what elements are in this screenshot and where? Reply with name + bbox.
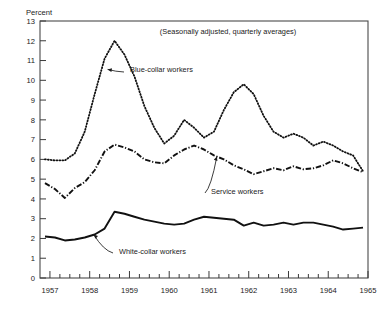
annotation-label: Blue-collar workers	[130, 65, 193, 74]
y-axis-label: Percent	[26, 8, 53, 17]
chart-container: Percent (Seasonally adjusted, quarterly …	[0, 0, 391, 318]
x-tick-label: 1960	[161, 286, 178, 295]
y-tick-label: 3	[31, 214, 35, 223]
y-tick-label: 10	[27, 76, 35, 85]
y-tick-label: 9	[31, 96, 35, 105]
y-tick-label: 6	[31, 155, 35, 164]
annotation-label: White-collar workers	[119, 247, 186, 256]
annotation-arrowhead	[108, 68, 112, 72]
x-tick-label: 1965	[360, 286, 377, 295]
y-tick-label: 0	[31, 274, 35, 283]
annotation-arrowhead	[94, 235, 98, 239]
y-axis-tick-labels: 012345678910111213	[27, 17, 35, 283]
chart-note: (Seasonally adjusted, quarterly averages…	[160, 27, 296, 36]
series-annotations: Blue-collar workersService workersWhite-…	[94, 65, 264, 256]
y-tick-label: 7	[31, 135, 35, 144]
x-axis-tick-labels: 195719581959196019611962196319641965	[41, 286, 376, 295]
x-tick-label: 1958	[81, 286, 98, 295]
y-tick-label: 5	[31, 175, 35, 184]
y-tick-label: 1	[31, 254, 35, 263]
x-tick-label: 1959	[121, 286, 138, 295]
y-axis-ticks	[40, 21, 46, 278]
annotation-label: Service workers	[211, 187, 264, 196]
x-tick-label: 1957	[41, 286, 58, 295]
y-tick-label: 4	[31, 195, 35, 204]
series-line-0	[45, 41, 363, 171]
data-series-group	[45, 41, 363, 241]
annotation-arrowhead	[214, 156, 218, 161]
y-tick-label: 11	[27, 56, 35, 65]
y-tick-label: 12	[27, 37, 35, 46]
x-axis-ticks	[50, 271, 368, 278]
unemployment-rate-line-chart: Percent (Seasonally adjusted, quarterly …	[0, 0, 391, 318]
y-tick-label: 8	[31, 116, 35, 125]
y-tick-label: 2	[31, 234, 35, 243]
x-tick-label: 1962	[240, 286, 257, 295]
x-tick-label: 1961	[201, 286, 218, 295]
series-line-2	[45, 212, 363, 241]
y-tick-label: 13	[27, 17, 35, 26]
x-tick-label: 1964	[320, 286, 337, 295]
x-tick-label: 1963	[280, 286, 297, 295]
series-line-1	[45, 145, 363, 198]
